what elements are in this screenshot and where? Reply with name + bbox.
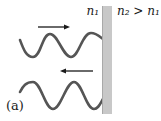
reflected-wave	[20, 82, 103, 109]
boundary-bar	[102, 6, 112, 114]
leftward-arrow-icon	[60, 69, 93, 74]
medium1-label: n₁	[70, 4, 99, 18]
figure-label: (a)	[6, 99, 24, 113]
wave-reflection-figure: n₁ n₂ > n₁ (a)	[0, 0, 161, 121]
rightward-arrow-icon	[38, 25, 70, 30]
incident-wave	[20, 33, 103, 57]
medium2-label: n₂ > n₁	[117, 4, 160, 18]
wave-diagram	[0, 0, 161, 121]
